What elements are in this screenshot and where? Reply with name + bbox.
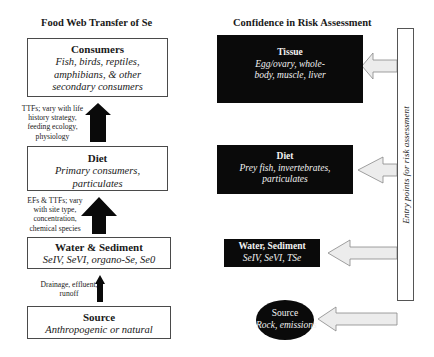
right-diet-line-2: particulates	[217, 174, 353, 186]
right-diet-box: Diet Prey fish, invertebrates, particula…	[217, 145, 353, 194]
tissue-line-1: Egg/ovary, whole-	[217, 59, 363, 71]
right-source-line-1: Rock, emissions	[256, 320, 314, 332]
arrow-left-icon	[362, 53, 397, 79]
right-source-title: Source	[256, 308, 314, 320]
tissue-title: Tissue	[217, 47, 363, 59]
arrow-up-icon	[85, 103, 111, 142]
tissue-line-2: body, muscle, liver	[217, 70, 363, 82]
arrow-up-icon	[81, 197, 117, 234]
right-source-text: Source Rock, emissions	[256, 308, 314, 331]
right-diet-title: Diet	[217, 151, 353, 163]
arrow-left-icon	[318, 307, 397, 331]
right-water-sediment-box: Water, Sediment SeIV, SeVI, TSe	[224, 239, 320, 267]
right-diet-line-1: Prey fish, invertebrates,	[217, 163, 353, 175]
arrow-left-icon	[358, 157, 397, 183]
right-water-sediment-line-1: SeIV, SeVI, TSe	[224, 253, 320, 265]
arrow-left-icon	[328, 240, 397, 266]
entry-points-bar: Entry points for risk assessment	[397, 28, 414, 301]
entry-points-label: Entry points for risk assessment	[401, 106, 411, 223]
tissue-box: Tissue Egg/ovary, whole- body, muscle, l…	[217, 35, 363, 103]
right-water-sediment-title: Water, Sediment	[224, 241, 320, 253]
arrow-up-icon	[95, 275, 105, 302]
